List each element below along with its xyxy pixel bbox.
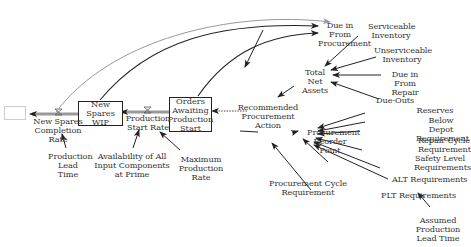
var-unserviceable-inventory[interactable]: Unserviceable Inventory	[374, 46, 430, 64]
stock-orders-awaiting-production-start[interactable]: Orders Awaiting Production Start	[169, 97, 212, 132]
var-procurement-cycle-requirement[interactable]: Procurement Cycle Requirement	[262, 179, 354, 197]
var-due-in-from-repair[interactable]: Due in From Repair	[381, 70, 429, 97]
var-repair-cycle-requirements[interactable]: Repair Cycle Requirements	[418, 136, 470, 154]
var-availability-input-components[interactable]: Availability of All Input Components at …	[91, 152, 173, 179]
var-production-lead-time[interactable]: Production Lead Time	[48, 152, 88, 179]
var-alt-requirements[interactable]: ALT Requirements	[392, 175, 466, 184]
var-procurement-reorder-point[interactable]: Procurement Reorder Point	[307, 128, 353, 155]
var-safety-level-requirements[interactable]: Safety Level Requirements	[414, 154, 466, 172]
var-reserves[interactable]: Reserves	[415, 106, 455, 115]
var-due-outs[interactable]: Due-Outs	[376, 96, 410, 105]
var-maximum-production-rate[interactable]: Maximum Production Rate	[170, 155, 232, 182]
stock-label: Orders Awaiting Production Start	[168, 97, 214, 133]
var-plt-requirements[interactable]: PLT Requirements	[381, 191, 451, 200]
flow-production-start-rate[interactable]: Production Start Rate	[122, 114, 174, 132]
var-serviceable-inventory[interactable]: Serviceable Inventory	[368, 22, 414, 40]
var-total-net-assets[interactable]: Total Net Assets	[297, 68, 333, 95]
sink-cloud	[4, 106, 26, 120]
var-recommended-procurement-action[interactable]: Recommended Procurement Action	[232, 103, 304, 130]
var-assumed-production-lead-time[interactable]: Assumed Production Lead Time	[408, 216, 468, 243]
var-due-in-from-procurement[interactable]: Due in From Procurement	[318, 21, 362, 48]
flow-new-spares-completion-rate[interactable]: New Spares Completion Rate	[26, 117, 90, 144]
